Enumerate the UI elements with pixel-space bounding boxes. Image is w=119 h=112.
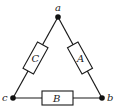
- node-b: [99, 95, 105, 101]
- node-a: [55, 14, 61, 20]
- node-b-label: b: [107, 92, 113, 103]
- resistor-a-label: A: [76, 53, 84, 64]
- delta-circuit-diagram: C A B a b c: [0, 0, 119, 112]
- node-c: [10, 95, 16, 101]
- node-c-label: c: [2, 92, 8, 103]
- node-a-label: a: [55, 2, 61, 13]
- resistor-b-label: B: [52, 93, 60, 104]
- resistor-c-label: C: [32, 53, 40, 64]
